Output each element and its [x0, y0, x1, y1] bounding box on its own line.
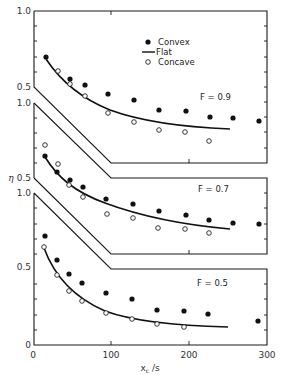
y-tick-label: 1.0	[17, 6, 32, 16]
convex-points	[43, 54, 261, 123]
x-tick-label: 100	[102, 350, 119, 360]
y-axis-label: η	[8, 173, 14, 183]
x-tick-label: 0	[30, 350, 36, 360]
y-tick-label: 0.5	[17, 262, 31, 272]
legend-flat: Flat	[156, 47, 172, 57]
x-axis-label: xc /s	[140, 363, 160, 374]
concave-marker-icon	[146, 60, 151, 65]
x-tick-label: 200	[180, 350, 197, 360]
panel-f09-frame	[34, 11, 267, 163]
panel-label-f05: F = 0.5	[197, 278, 228, 288]
y-tick-label: 0.5	[17, 173, 31, 183]
x-tick-label: 300	[258, 350, 275, 360]
y-tick-label: 0.5	[17, 82, 31, 92]
y-tick-label: 1.0	[17, 188, 32, 198]
convex-marker-icon	[145, 39, 150, 44]
legend-concave: Concave	[158, 57, 195, 67]
legend-convex: Convex	[158, 37, 190, 47]
concave-points	[42, 245, 187, 330]
concave-points	[43, 143, 212, 236]
y-tick-label: 0	[25, 340, 31, 350]
y-tick-label: 1.0	[17, 98, 32, 108]
panel-label-f07: F = 0.7	[198, 184, 229, 194]
panel-label-f09: F = 0.9	[200, 92, 231, 102]
efficiency-chart: 1.0 0.5 1.0 0.5 η 1.0 0.5 0 0 100 200 30…	[0, 0, 283, 375]
legend: Convex Flat Concave	[142, 37, 195, 67]
